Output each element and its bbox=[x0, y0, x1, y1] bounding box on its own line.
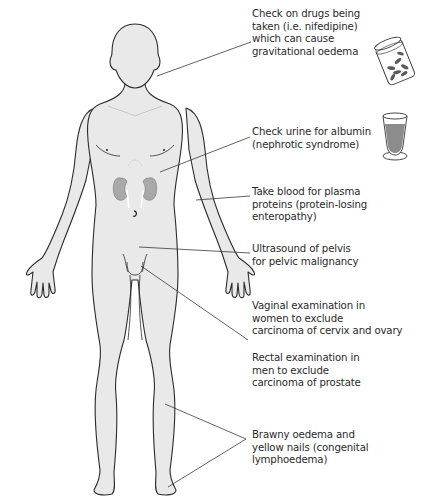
torso-legs-outline bbox=[88, 84, 183, 495]
annotation-line: Brawny oedema and bbox=[252, 429, 368, 442]
human-body-figure bbox=[26, 24, 254, 495]
annotation-line: yellow nails (congenital bbox=[252, 442, 368, 455]
annotation-line: carcinoma of cervix and ovary bbox=[252, 325, 402, 338]
head-outline bbox=[110, 24, 160, 88]
annotation-vaginal: Vaginal examination in women to exclude … bbox=[252, 300, 402, 338]
urine-glass-icon bbox=[383, 113, 407, 160]
annotation-line: which can cause bbox=[252, 33, 360, 46]
annotation-line: gravitational oedema bbox=[252, 46, 360, 59]
leader-drugs bbox=[157, 42, 251, 76]
annotation-line: for pelvic malignancy bbox=[252, 256, 358, 269]
pill-bottle-icon bbox=[373, 35, 415, 86]
annotation-line: taken (i.e. nifedipine) bbox=[252, 21, 360, 34]
annotation-drugs: Check on drugs being taken (i.e. nifedip… bbox=[252, 8, 360, 58]
annotation-rectal: Rectal examination in men to exclude car… bbox=[252, 352, 361, 390]
annotation-line: Ultrasound of pelvis bbox=[252, 243, 358, 256]
annotation-line: carcinoma of prostate bbox=[252, 377, 361, 390]
annotation-line: men to exclude bbox=[252, 365, 361, 378]
annotation-line: (nephrotic syndrome) bbox=[252, 139, 371, 152]
annotation-ultrasound: Ultrasound of pelvis for pelvic malignan… bbox=[252, 243, 358, 268]
annotation-line: Check on drugs being bbox=[252, 8, 360, 21]
annotation-blood: Take blood for plasma proteins (protein-… bbox=[252, 186, 367, 224]
annotation-line: Vaginal examination in bbox=[252, 300, 402, 313]
leader-brawny-toes bbox=[168, 439, 246, 487]
annotation-urine: Check urine for albumin (nephrotic syndr… bbox=[252, 126, 371, 151]
annotation-line: Check urine for albumin bbox=[252, 126, 371, 139]
annotation-brawny: Brawny oedema and yellow nails (congenit… bbox=[252, 429, 368, 467]
annotation-line: women to exclude bbox=[252, 313, 402, 326]
right-arm-outline bbox=[26, 108, 95, 298]
left-arm-outline bbox=[186, 108, 255, 298]
body-diagram bbox=[0, 0, 427, 497]
annotation-line: Rectal examination in bbox=[252, 352, 361, 365]
annotation-line: proteins (protein-losing bbox=[252, 199, 367, 212]
leader-brawny-calf bbox=[165, 404, 246, 439]
annotation-line: enteropathy) bbox=[252, 211, 367, 224]
left-kidney-icon bbox=[143, 178, 157, 201]
left-nipple bbox=[106, 149, 108, 151]
right-nipple bbox=[163, 149, 165, 151]
annotation-line: lymphoedema) bbox=[252, 454, 368, 467]
annotation-line: Take blood for plasma bbox=[252, 186, 367, 199]
right-kidney-icon bbox=[113, 178, 127, 201]
